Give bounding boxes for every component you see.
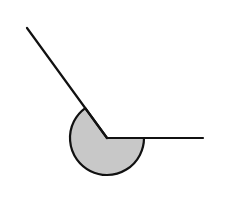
oblique-ray <box>27 28 107 138</box>
reflex-angle-diagram <box>0 0 242 206</box>
reflex-angle-sector <box>70 108 144 175</box>
